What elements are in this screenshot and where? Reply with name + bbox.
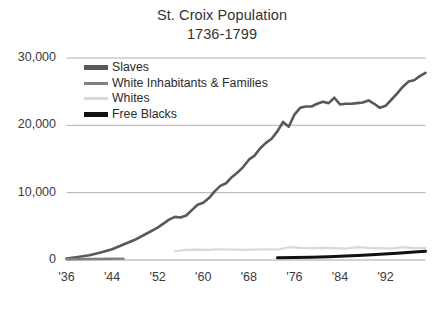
legend-swatch-icon (84, 97, 108, 100)
legend-swatch-icon (84, 112, 108, 117)
x-axis-tick-label: '60 (183, 270, 223, 284)
legend-item[interactable]: White Inhabitants & Families (84, 76, 268, 92)
x-axis-tick-label: '76 (274, 270, 314, 284)
x-axis-tick-label: '44 (92, 270, 132, 284)
x-axis-tick-label: '36 (47, 270, 87, 284)
x-axis-tick-label: '68 (229, 270, 269, 284)
y-axis-tick-label: 10,000 (0, 185, 56, 199)
series-line-free-blacks (277, 251, 425, 257)
chart-legend: SlavesWhite Inhabitants & FamiliesWhites… (84, 60, 268, 122)
x-axis-tick-label: '52 (138, 270, 178, 284)
series-line-white-inhabitants-families (67, 259, 124, 260)
legend-item-label: White Inhabitants & Families (112, 77, 268, 90)
plot-area (0, 0, 444, 315)
chart-container: St. Croix Population 1736-1799 010,00020… (0, 0, 444, 315)
legend-item[interactable]: Free Blacks (84, 107, 268, 123)
y-axis-tick-label: 20,000 (0, 117, 56, 131)
legend-item[interactable]: Slaves (84, 60, 268, 76)
x-axis-tick-label: '92 (366, 270, 406, 284)
legend-swatch-icon (84, 65, 108, 70)
x-axis-tick-label: '84 (320, 270, 360, 284)
legend-item-label: Free Blacks (112, 108, 177, 121)
legend-item-label: Whites (112, 92, 150, 105)
series-line-whites (175, 247, 426, 251)
legend-item-label: Slaves (112, 61, 149, 74)
legend-swatch-icon (84, 82, 108, 85)
legend-item[interactable]: Whites (84, 91, 268, 107)
y-axis-tick-label: 30,000 (0, 50, 56, 64)
y-axis-tick-label: 0 (0, 252, 56, 266)
